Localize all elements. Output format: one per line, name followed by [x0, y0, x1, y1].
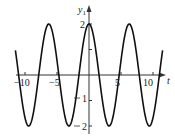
y-axis-label: y1 — [77, 4, 86, 17]
x-tick-label: 10 — [143, 77, 153, 88]
x-tick-label: −10 — [14, 77, 30, 88]
y-axis-arrow-icon — [87, 5, 92, 12]
x-tick-label: 5 — [115, 77, 120, 88]
chart: −10 −5 5 10 2 1 2 t y1 — [0, 0, 175, 140]
y-tick-label: 2 — [82, 121, 87, 132]
x-tick-label: −5 — [49, 77, 60, 88]
y-tick-label: 1 — [82, 93, 87, 104]
x-axis-label: t — [167, 75, 170, 86]
y-tick-label: 2 — [80, 19, 85, 30]
